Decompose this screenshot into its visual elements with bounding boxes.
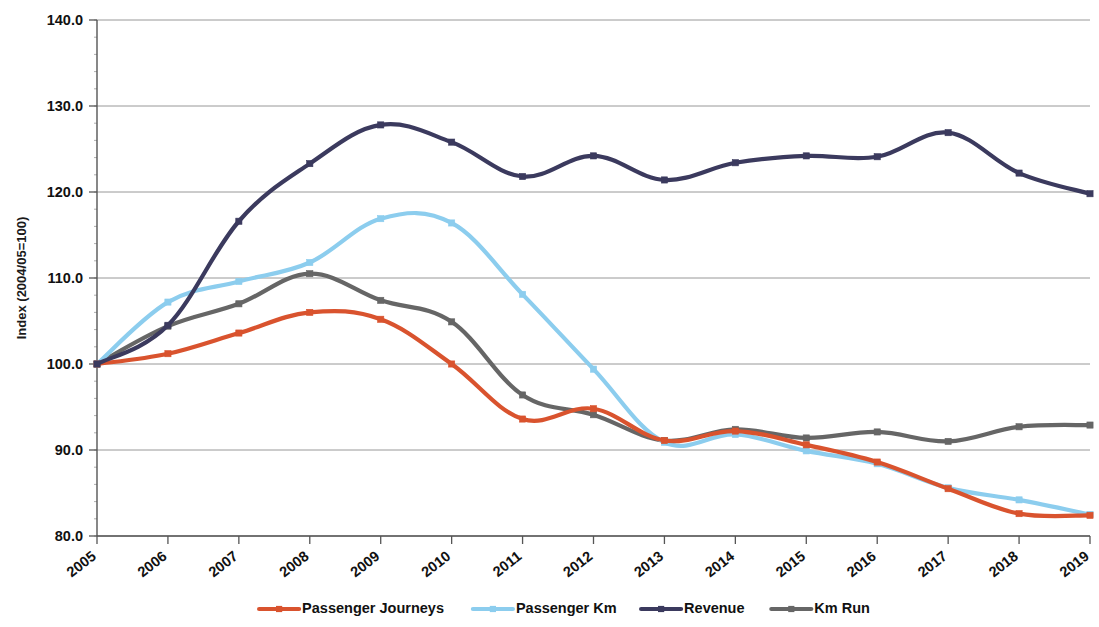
legend-label: Passenger Journeys <box>302 600 444 616</box>
y-tick-label: 90.0 <box>55 442 83 458</box>
data-point-marker <box>803 153 809 159</box>
data-point-marker <box>945 130 951 136</box>
data-point-marker <box>449 139 455 145</box>
series-km-run <box>94 271 1093 445</box>
legend-swatch-marker <box>490 606 496 612</box>
y-axis-tick-labels: 80.090.0100.0110.0120.0130.0140.0 <box>47 12 83 544</box>
x-tick-label: 2009 <box>347 548 382 580</box>
data-point-marker <box>449 319 455 325</box>
data-point-marker <box>590 153 596 159</box>
y-tick-label: 100.0 <box>47 356 83 372</box>
legend: Passenger JourneysPassenger KmRevenueKm … <box>259 600 870 616</box>
chart-canvas: 80.090.0100.0110.0120.0130.0140.0 200520… <box>0 0 1099 627</box>
x-axis-tick-labels: 2005200620072008200920102011201220132014… <box>64 548 1092 580</box>
x-tick-label: 2015 <box>773 548 808 580</box>
x-tick-label: 2018 <box>986 548 1021 580</box>
x-tick-label: 2016 <box>844 548 879 580</box>
data-point-marker <box>378 122 384 128</box>
x-tick-label: 2007 <box>205 548 240 580</box>
data-point-marker <box>803 448 809 454</box>
data-point-marker <box>236 278 242 284</box>
data-point-marker <box>307 259 313 265</box>
y-tick-label: 80.0 <box>55 528 83 544</box>
data-point-marker <box>449 361 455 367</box>
legend-item-passenger-km[interactable]: Passenger Km <box>473 600 617 616</box>
data-point-marker <box>1016 424 1022 430</box>
data-point-marker <box>236 330 242 336</box>
data-point-marker <box>1016 497 1022 503</box>
data-point-marker <box>307 271 313 277</box>
data-point-marker <box>307 309 313 315</box>
data-point-marker <box>378 297 384 303</box>
y-tick-label: 110.0 <box>48 270 84 286</box>
x-tick-label: 2008 <box>276 548 311 580</box>
data-point-marker <box>378 216 384 222</box>
data-point-marker <box>874 459 880 465</box>
x-tick-label: 2014 <box>702 548 737 580</box>
y-tick-label: 120.0 <box>47 184 83 200</box>
legend-label: Revenue <box>684 600 744 616</box>
data-point-marker <box>519 416 525 422</box>
data-point-marker <box>165 322 171 328</box>
data-point-marker <box>661 177 667 183</box>
legend-item-passenger-journeys[interactable]: Passenger Journeys <box>259 600 444 616</box>
legend-label: Passenger Km <box>516 600 617 616</box>
data-point-marker <box>590 366 596 372</box>
data-point-marker <box>519 392 525 398</box>
data-point-marker <box>449 220 455 226</box>
data-point-marker <box>732 160 738 166</box>
x-tick-label: 2012 <box>560 548 595 580</box>
data-point-marker <box>519 173 525 179</box>
x-tick-label: 2010 <box>418 548 453 580</box>
x-tick-label: 2005 <box>64 548 99 580</box>
data-point-marker <box>378 316 384 322</box>
line-chart: 80.090.0100.0110.0120.0130.0140.0 200520… <box>0 0 1099 627</box>
y-axis-title-label: Index (2004/05=100) <box>14 217 29 340</box>
y-tick-label: 130.0 <box>47 98 83 114</box>
data-point-marker <box>519 291 525 297</box>
series-line <box>97 124 1090 364</box>
data-point-marker <box>590 412 596 418</box>
data-point-marker <box>165 351 171 357</box>
data-point-marker <box>945 486 951 492</box>
data-point-marker <box>874 154 880 160</box>
data-point-marker <box>236 218 242 224</box>
data-point-marker <box>1016 511 1022 517</box>
data-point-marker <box>1087 512 1093 518</box>
data-series <box>94 122 1093 519</box>
x-tick-label: 2006 <box>134 548 169 580</box>
data-point-marker <box>590 406 596 412</box>
x-tick-label: 2013 <box>631 548 666 580</box>
data-point-marker <box>236 301 242 307</box>
series-passenger-km <box>94 213 1093 518</box>
legend-swatch-marker <box>788 606 794 612</box>
data-point-marker <box>307 161 313 167</box>
y-axis-title: Index (2004/05=100) <box>14 217 29 340</box>
legend-swatch-marker <box>276 606 282 612</box>
legend-label: Km Run <box>814 600 870 616</box>
x-tick-label: 2019 <box>1057 548 1092 580</box>
data-point-marker <box>661 437 667 443</box>
legend-swatch-marker <box>658 606 664 612</box>
data-point-marker <box>165 299 171 305</box>
data-point-marker <box>803 442 809 448</box>
legend-item-km-run[interactable]: Km Run <box>771 600 870 616</box>
data-point-marker <box>1016 170 1022 176</box>
x-tick-label: 2017 <box>915 548 950 580</box>
data-point-marker <box>94 361 100 367</box>
data-point-marker <box>1087 422 1093 428</box>
legend-item-revenue[interactable]: Revenue <box>641 600 744 616</box>
data-point-marker <box>874 429 880 435</box>
data-point-marker <box>803 435 809 441</box>
y-tick-label: 140.0 <box>47 12 83 28</box>
x-tick-label: 2011 <box>490 548 525 580</box>
data-point-marker <box>945 438 951 444</box>
data-point-marker <box>732 428 738 434</box>
data-point-marker <box>1087 191 1093 197</box>
